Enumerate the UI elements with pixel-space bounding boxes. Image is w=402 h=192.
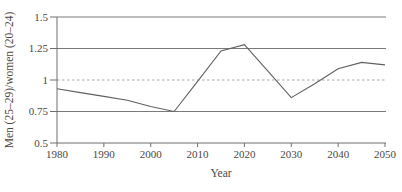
x-tick-label: 2040 xyxy=(327,148,350,160)
y-tick-label: 0.75 xyxy=(29,105,49,117)
x-tick-label: 2000 xyxy=(140,148,163,160)
y-axis-title: Men (25–29)/women (20–24) xyxy=(3,11,16,148)
chart-canvas: 0.50.7511.251.51980199020002010202020302… xyxy=(0,0,402,192)
y-tick-label: 1.5 xyxy=(34,11,48,23)
ratio-line-chart-figure: 0.50.7511.251.51980199020002010202020302… xyxy=(0,0,402,192)
chart-plot-area: 0.50.7511.251.51980199020002010202020302… xyxy=(29,11,397,160)
data-line xyxy=(57,45,385,112)
x-tick-label: 2050 xyxy=(374,148,397,160)
x-tick-label: 1990 xyxy=(93,148,116,160)
x-tick-label: 2010 xyxy=(187,148,210,160)
y-tick-label: 1 xyxy=(43,74,49,86)
x-axis-title: Year xyxy=(210,167,231,179)
x-tick-label: 1980 xyxy=(46,148,69,160)
x-tick-label: 2020 xyxy=(233,148,256,160)
x-tick-label: 2030 xyxy=(280,148,303,160)
y-tick-label: 0.5 xyxy=(34,137,48,149)
y-tick-label: 1.25 xyxy=(29,42,49,54)
